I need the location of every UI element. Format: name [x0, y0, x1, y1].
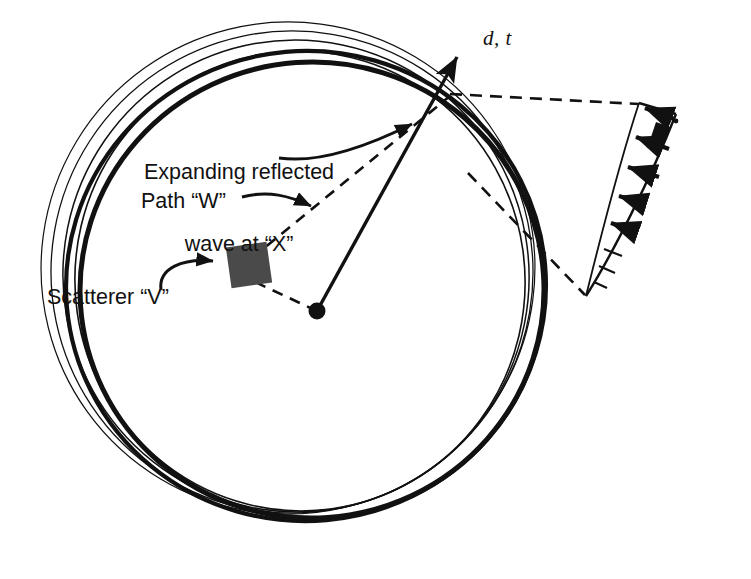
dt-ray	[317, 57, 457, 311]
sigma-dot	[674, 119, 679, 124]
fan-rung	[594, 282, 607, 288]
fan-arrow	[611, 223, 631, 230]
fan-arrow	[619, 196, 645, 204]
axis-arrow-label: d, t	[483, 27, 512, 51]
source-point	[309, 303, 326, 320]
upper-tie-line	[450, 94, 639, 104]
fan-rung-group	[594, 249, 622, 288]
path-annotation: Path “W”	[141, 189, 226, 213]
figure-canvas: Expanding reflected wave at “X” Path “W”…	[0, 0, 751, 579]
profile-fan	[586, 103, 678, 296]
wave-annotation-line2: wave at “X”	[144, 232, 334, 256]
scatterer-annotation: Scatterer “V”	[47, 285, 169, 309]
wave-annotation-line1: Expanding reflected	[144, 160, 334, 184]
fan-arrow	[628, 167, 659, 177]
